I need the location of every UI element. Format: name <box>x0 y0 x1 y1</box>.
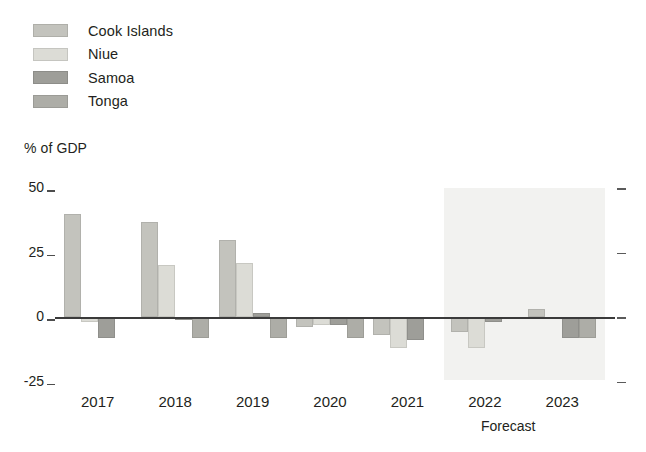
x-axis-tick-label: 2023 <box>522 393 602 410</box>
bar[interactable] <box>141 222 158 317</box>
x-axis-tick-label: 2021 <box>367 393 447 410</box>
bar[interactable] <box>562 317 579 338</box>
x-axis-tick-label: 2018 <box>135 393 215 410</box>
bar[interactable] <box>373 317 390 335</box>
y-axis-tick-mark <box>47 384 55 386</box>
y-axis-tick-label: -25 <box>0 373 44 389</box>
forecast-shaded-region <box>444 188 605 380</box>
bar[interactable] <box>219 240 236 317</box>
bar[interactable] <box>192 317 209 338</box>
x-axis-tick-label: 2019 <box>213 393 293 410</box>
bar[interactable] <box>407 317 424 340</box>
y-axis-tick-mark-right <box>617 188 626 190</box>
x-axis-tick-label: 2020 <box>290 393 370 410</box>
x-axis-tick-label: 2022 <box>445 393 525 410</box>
y-axis-tick-label: 0 <box>0 308 44 324</box>
y-axis-tick-label: 25 <box>0 244 44 260</box>
y-axis-tick-mark <box>47 255 55 257</box>
bar[interactable] <box>468 317 485 348</box>
bar[interactable] <box>270 317 287 338</box>
bar[interactable] <box>64 214 81 317</box>
chart-root: Cook IslandsNiueSamoaTonga % of GDP 5025… <box>0 0 646 452</box>
bar[interactable] <box>390 317 407 348</box>
y-axis-tick-mark-right <box>617 382 626 384</box>
bar[interactable] <box>158 265 175 317</box>
bar[interactable] <box>528 309 545 317</box>
plot-area: 50250-252017201820192020202120222023Fore… <box>0 0 646 452</box>
forecast-region-label: Forecast <box>481 418 535 434</box>
x-axis-tick-label: 2017 <box>58 393 138 410</box>
y-axis-tick-mark <box>47 190 55 192</box>
bar[interactable] <box>347 317 364 338</box>
bar[interactable] <box>451 317 468 332</box>
bar[interactable] <box>98 317 115 338</box>
y-axis-tick-mark-right <box>617 253 626 255</box>
bar[interactable] <box>579 317 596 338</box>
y-axis-tick-mark-right <box>617 317 626 319</box>
bar[interactable] <box>236 263 253 317</box>
zero-baseline <box>55 317 615 319</box>
y-axis-tick-mark <box>47 319 55 321</box>
y-axis-tick-label: 50 <box>0 179 44 195</box>
